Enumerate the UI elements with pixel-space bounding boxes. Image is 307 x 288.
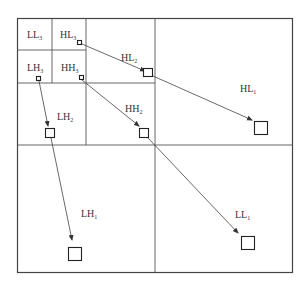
wavelet-diagram: LL3 HL3 LH3 HH3 HL2 LH2 HH2 HL1 LH1 LL1 <box>0 0 307 288</box>
coef-box-lh3 <box>37 77 41 81</box>
arrow-hh2-to-ll1 <box>148 138 238 233</box>
coef-box-hl1 <box>255 122 268 135</box>
label-ll1: LL1 <box>235 209 250 221</box>
label-lh2: LH2 <box>57 111 73 123</box>
label-lh3: LH3 <box>27 62 43 74</box>
arrow-lh3-to-lh2 <box>39 81 48 126</box>
coef-box-lh1 <box>69 248 82 261</box>
label-ll3: LL3 <box>27 29 42 41</box>
label-hh3: HH3 <box>61 62 78 74</box>
coef-box-hl2 <box>144 69 153 77</box>
coef-box-lh2 <box>46 129 55 138</box>
label-hl2: HL2 <box>121 52 137 64</box>
coef-box-hh2 <box>140 129 149 138</box>
coef-box-hl3 <box>78 41 82 45</box>
label-hl3: HL3 <box>60 29 76 41</box>
coef-box-hh3 <box>80 76 84 80</box>
arrow-hl2-to-hl1 <box>153 76 252 120</box>
arrow-lh2-to-lh1 <box>51 138 72 240</box>
coef-box-ll1 <box>242 237 255 250</box>
label-lh1: LH1 <box>81 208 97 220</box>
label-hl1: HL1 <box>240 83 256 95</box>
label-hh2: HH2 <box>125 103 142 115</box>
